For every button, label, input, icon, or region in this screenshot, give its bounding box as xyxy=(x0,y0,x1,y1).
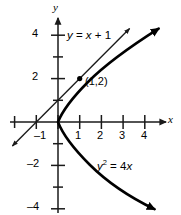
line-equation-label: y = x + 1 xyxy=(67,30,111,42)
x-axis xyxy=(10,115,166,129)
parabola-equation-label: y2 = 4x xyxy=(97,161,132,173)
parabola-eq-operator: = 4 xyxy=(107,160,127,172)
intersection-point-marker xyxy=(77,76,82,81)
x-tick-label-minus-1: –1 xyxy=(34,130,46,141)
graph-figure: –1 1 2 3 4 4 2 –2 –4 x y y = x + 1 y2 = … xyxy=(0,0,181,215)
y-axis-label: y xyxy=(53,2,58,13)
intersection-point-label: (1,2) xyxy=(85,76,108,87)
y-tick-label-4: 4 xyxy=(32,28,38,39)
x-tick-label-2: 2 xyxy=(97,130,103,141)
x-axis-label: x xyxy=(168,114,173,125)
line-eq-operator: = xyxy=(73,29,86,41)
line-eq-tail: + 1 xyxy=(92,29,112,41)
x-tick-label-1: 1 xyxy=(75,130,81,141)
x-tick-label-3: 3 xyxy=(119,130,125,141)
y-tick-label-2: 2 xyxy=(32,71,38,82)
x-tick-label-4: 4 xyxy=(141,130,147,141)
y-tick-label-minus-2: –2 xyxy=(27,158,39,169)
y-tick-label-minus-4: –4 xyxy=(27,201,39,212)
parabola-y-squared-equals-4x xyxy=(58,29,159,210)
y-axis xyxy=(51,18,65,213)
parabola-eq-variable: x xyxy=(126,160,132,172)
line-y-equals-x-plus-1 xyxy=(12,29,129,146)
